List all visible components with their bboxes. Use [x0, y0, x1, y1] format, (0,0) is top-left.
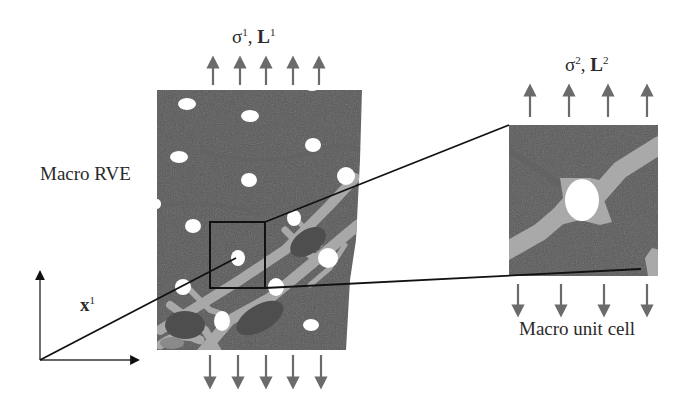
central-pore	[565, 179, 599, 221]
cell-top-load-arrows	[530, 90, 647, 117]
figure-canvas: σ1, L1 σ2, L2 Macro RVE Macro unit cell …	[0, 0, 691, 401]
rve-load-label: σ1, L1	[232, 26, 275, 48]
macro-unit-cell-image	[505, 125, 660, 276]
rve-top-load-arrows	[213, 62, 319, 85]
cell-bottom-load-arrows	[518, 284, 647, 311]
macro-rve-image	[150, 81, 370, 355]
macro-rve-label: Macro RVE	[40, 163, 131, 185]
macro-unit-cell-label: Macro unit cell	[519, 318, 635, 340]
position-vector-label: x1	[80, 294, 95, 316]
cell-load-label: σ2, L2	[565, 54, 608, 76]
rve-bottom-load-arrows	[210, 355, 321, 383]
